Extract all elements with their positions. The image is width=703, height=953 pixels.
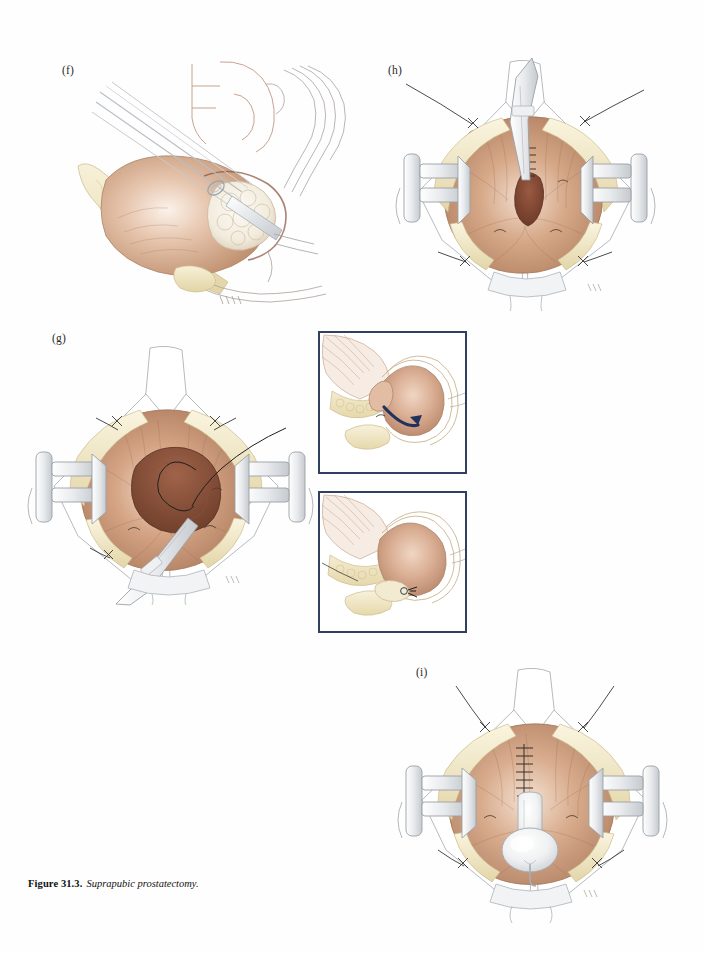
lower-body-outline: [152, 594, 186, 605]
panel-f: (f): [70, 56, 370, 306]
figure-caption: Figure 31.3.Suprapubic prostatectomy.: [28, 878, 199, 889]
pubic-region: [488, 272, 566, 297]
hatch-marks: [584, 890, 597, 897]
hatch-marks: [588, 284, 601, 291]
self-retaining-retractor-right: [235, 452, 313, 524]
figure-number: Figure 31.3.: [28, 878, 82, 889]
panel-i: (i): [400, 668, 665, 923]
pelvic-outline: [192, 62, 274, 152]
urethra-outline: [450, 549, 465, 563]
inset-cross-section-2: [318, 491, 467, 633]
panel-g-illustration: [28, 340, 313, 605]
urethral-outline: [268, 234, 318, 282]
pubic-region: [128, 570, 210, 595]
urethra-outline: [448, 393, 465, 407]
panel-f-illustration: [70, 56, 370, 306]
stay-suture-upper-left: [456, 686, 486, 728]
suture-detail: [376, 415, 385, 417]
stay-suture-upper-right: [584, 686, 614, 728]
inset-2-illustration: [320, 493, 465, 631]
pubic-region: [490, 884, 572, 909]
panel-g: (g): [28, 340, 313, 605]
panel-i-illustration: [400, 668, 665, 923]
inferior-fat-lobe: [345, 425, 390, 450]
stay-suture-upper-right: [584, 90, 644, 122]
panel-i-label: (i): [416, 666, 427, 678]
panel-h: (h): [398, 56, 653, 311]
panel-h-label: (h): [388, 64, 402, 76]
panel-h-illustration: [398, 56, 653, 311]
rectum-outline: [266, 66, 345, 196]
panel-f-label: (f): [62, 64, 74, 76]
stay-suture-upper-left: [406, 84, 472, 124]
hatch-marks: [226, 576, 239, 583]
figure-title: Suprapubic prostatectomy.: [86, 878, 198, 889]
inset-cross-section-1: [318, 331, 467, 474]
figure-page: (f): [0, 0, 703, 953]
panel-g-label: (g): [52, 332, 66, 344]
hatch-marks: [220, 296, 241, 304]
inset-1-illustration: [320, 333, 465, 472]
lower-body-outline: [510, 296, 542, 311]
